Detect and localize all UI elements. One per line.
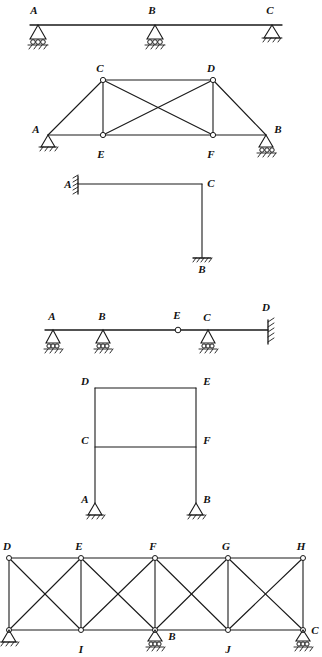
- support-truss-A-pin: [39, 135, 58, 151]
- frame-label-B: B: [202, 493, 210, 505]
- hinged-label-B: B: [97, 310, 105, 322]
- figure-sheet: A B C: [0, 0, 322, 657]
- figure-xbraced-truss: D E F G H I B J C: [0, 540, 319, 655]
- support-A-pin-roller: [28, 25, 48, 49]
- frame-label-A: A: [80, 493, 88, 505]
- truss-node-C: [100, 77, 105, 82]
- xtruss-node-G: [226, 556, 231, 561]
- support-hinged-B-pin-roller: [94, 330, 113, 353]
- xtruss-label-F: F: [148, 540, 157, 552]
- xtruss-node-I: [79, 628, 84, 633]
- support-lframe-A-fixed-wall: [73, 175, 78, 194]
- xtruss-label-C: C: [311, 624, 319, 636]
- truss-label-F: F: [206, 148, 215, 160]
- support-xtruss-B-roller: [146, 630, 165, 651]
- truss-node-D: [210, 77, 215, 82]
- figure-continuous-beam-ABC: A B C: [28, 4, 282, 49]
- support-C-pin: [262, 25, 282, 42]
- support-frame-A-pin: [86, 503, 105, 519]
- figure-portal-frame: D E C F A B: [80, 375, 211, 519]
- frame-label-F: F: [202, 434, 211, 446]
- hinged-label-C: C: [203, 311, 211, 323]
- support-truss-B-roller: [257, 135, 276, 157]
- lframe-label-B: B: [197, 263, 205, 275]
- frame-label-E: E: [202, 375, 210, 387]
- xtruss-node-F: [153, 556, 158, 561]
- hinged-label-E: E: [172, 309, 180, 321]
- xtruss-node-E: [79, 556, 84, 561]
- frame-label-C: C: [81, 434, 89, 446]
- support-B-pin-roller: [145, 25, 165, 49]
- hinged-label-A: A: [47, 310, 55, 322]
- xtruss-label-I: I: [78, 643, 84, 655]
- truss-label-E: E: [96, 148, 104, 160]
- xtruss-label-B: B: [167, 630, 175, 642]
- xtruss-label-E: E: [74, 540, 82, 552]
- figure-truss-ACDB: C D A E F B: [31, 62, 281, 160]
- xtruss-label-H: H: [296, 540, 306, 552]
- xtruss-node-H: [301, 556, 306, 561]
- truss-member-AC: [48, 80, 103, 135]
- truss-member-DB: [213, 80, 266, 135]
- support-hinged-C-pin-roller: [199, 330, 218, 353]
- truss-node-E: [100, 132, 105, 137]
- support-lframe-B-fixed-ground: [193, 258, 212, 262]
- support-frame-B-pin: [187, 503, 206, 519]
- truss-label-A: A: [31, 123, 39, 135]
- node-label-A: A: [29, 4, 37, 16]
- truss-label-C: C: [96, 62, 104, 74]
- frame-label-D: D: [80, 375, 89, 387]
- node-label-C: C: [266, 4, 274, 16]
- figure-lframe-ACB: A C B: [63, 175, 215, 275]
- xtruss-label-D: D: [2, 540, 11, 552]
- xtruss-node-D: [7, 556, 12, 561]
- xtruss-label-J: J: [224, 643, 231, 655]
- node-label-B: B: [147, 4, 155, 16]
- figure-hinged-beam: A B E C D: [44, 301, 274, 353]
- support-xtruss-C-roller: [294, 630, 313, 651]
- truss-label-D: D: [206, 62, 215, 74]
- support-hinged-A-pin-roller: [44, 330, 63, 353]
- lframe-label-A: A: [63, 178, 71, 190]
- truss-node-F: [210, 132, 215, 137]
- support-hinged-D-fixed-wall: [268, 318, 274, 344]
- hinged-label-D: D: [261, 301, 270, 313]
- xtruss-node-J: [226, 628, 231, 633]
- lframe-label-C: C: [207, 177, 215, 189]
- structural-diagrams-canvas: A B C: [0, 0, 322, 657]
- truss-label-B: B: [273, 123, 281, 135]
- internal-hinge-E: [175, 327, 181, 333]
- xtruss-label-G: G: [222, 540, 230, 552]
